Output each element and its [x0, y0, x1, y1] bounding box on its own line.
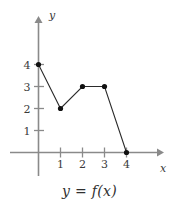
x-tick-label-4: 4	[123, 158, 130, 171]
x-tick-label-3: 3	[101, 158, 108, 171]
y-tick-label-3: 3	[24, 81, 31, 94]
y-axis-arrowhead	[35, 16, 43, 23]
y-tick-label-2: 2	[24, 103, 31, 116]
x-axis-label: x	[160, 162, 167, 175]
x-tick-label-1: 1	[57, 158, 64, 171]
y-tick-label-1: 1	[24, 125, 31, 138]
data-point-3-3	[102, 84, 107, 89]
x-tick-label-2: 2	[79, 158, 86, 171]
y-axis-label: y	[48, 9, 56, 22]
data-point-0-4	[36, 62, 41, 67]
y-tick-label-4: 4	[24, 59, 31, 72]
data-point-4-0	[124, 150, 129, 155]
function-curve	[39, 65, 127, 153]
data-point-1-2	[58, 106, 63, 111]
figure-caption: y = f(x)	[0, 183, 179, 199]
plot-area: 1 2 3 4 1 2 3 4 y x	[0, 0, 179, 211]
function-graph-figure: 1 2 3 4 1 2 3 4 y x y = f(x)	[0, 0, 179, 211]
data-point-2-3	[80, 84, 85, 89]
x-axis-arrowhead	[157, 149, 164, 157]
